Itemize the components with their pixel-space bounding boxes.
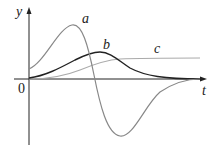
x-arrow-icon	[200, 77, 207, 82]
y-axis-label: y	[16, 5, 22, 19]
curve-c	[29, 58, 200, 79]
t-axis-label: t	[202, 84, 206, 98]
figure: y t 0 a b c	[0, 0, 216, 154]
origin-label: 0	[18, 82, 25, 96]
plot	[0, 0, 216, 154]
curve-c-label: c	[154, 42, 160, 56]
curve-a	[29, 25, 200, 136]
y-arrow-icon	[27, 7, 32, 14]
curve-b-label: b	[103, 38, 110, 52]
curve-b	[29, 52, 200, 79]
curve-a-label: a	[82, 12, 89, 26]
